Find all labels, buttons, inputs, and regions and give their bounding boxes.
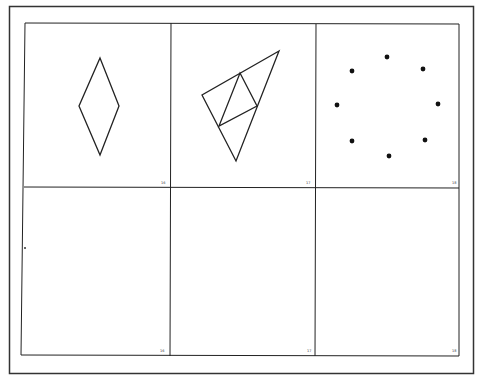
row-divider [24, 187, 459, 188]
panel-number: 18 [452, 181, 456, 185]
panel-bottom-17: 17 [307, 349, 311, 353]
inner-triangle-figure [219, 73, 257, 126]
dot [421, 67, 426, 72]
outer-triangle-figure [202, 51, 279, 161]
dot [350, 139, 355, 144]
rhombus-figure [79, 58, 119, 155]
stray-mark [24, 247, 26, 249]
panel-bottom-16: 16 [24, 247, 164, 353]
column-divider-1 [170, 23, 171, 356]
panel-number: 16 [161, 181, 165, 185]
dot [350, 69, 355, 74]
dot-circle-figure [335, 55, 441, 159]
dot [385, 55, 390, 60]
column-divider-2 [315, 24, 316, 356]
panel-top-16: 16 [79, 58, 165, 185]
dot [387, 154, 392, 159]
panel-number: 16 [160, 349, 164, 353]
panel-top-17: 17 [202, 51, 310, 185]
dot [436, 102, 441, 107]
panel-number: 17 [307, 349, 311, 353]
panel-bottom-18: 18 [452, 349, 456, 353]
dot [335, 103, 340, 108]
dot [423, 138, 428, 143]
panel-top-18: 18 [335, 55, 457, 185]
worksheet: 16 17 18 16 17 18 [0, 0, 480, 379]
outer-frame [10, 7, 474, 374]
panel-number: 17 [306, 181, 310, 185]
panel-number: 18 [452, 349, 456, 353]
